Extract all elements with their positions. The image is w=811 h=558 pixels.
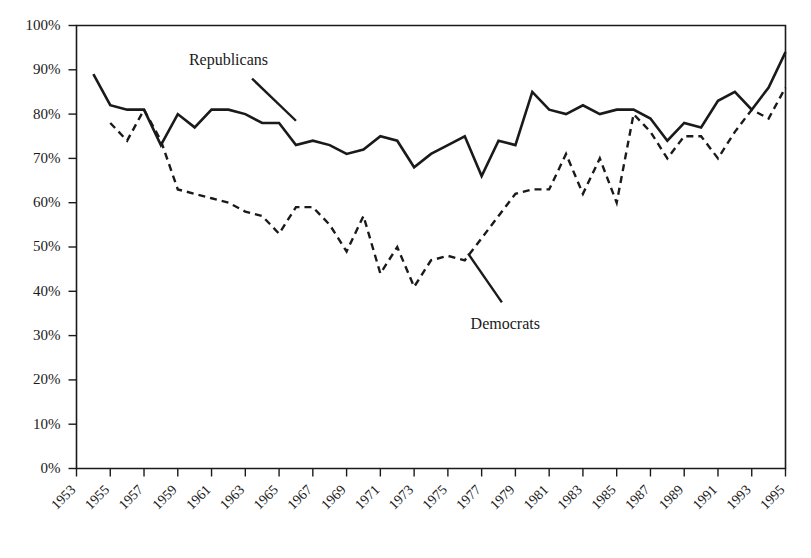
x-tick-label: 1991: [690, 482, 720, 512]
line-chart: 100%90%80%70%60%50%40%30%20%10%0% 195319…: [0, 0, 811, 558]
x-tick-label: 1973: [386, 482, 416, 512]
x-tick-label: 1965: [251, 482, 281, 512]
y-tick-label: 80%: [33, 106, 61, 122]
x-tick-label: 1987: [622, 482, 652, 512]
series-line-republicans: [93, 52, 785, 176]
series-line-democrats: [110, 88, 785, 287]
x-tick-label: 1983: [555, 482, 585, 512]
chart-container: 100%90%80%70%60%50%40%30%20%10%0% 195319…: [0, 0, 811, 558]
x-tick-label: 1989: [656, 482, 686, 512]
y-tick-label: 50%: [33, 238, 61, 254]
x-tick-label: 1971: [352, 482, 382, 512]
x-tick-label: 1957: [116, 482, 146, 512]
y-tick-label: 0%: [41, 460, 61, 476]
y-tick-label: 60%: [33, 194, 61, 210]
x-tick-label: 1953: [48, 482, 78, 512]
y-axis-tick-marks: [69, 26, 77, 469]
x-tick-label: 1981: [521, 482, 551, 512]
x-tick-label: 1963: [217, 482, 247, 512]
y-axis-tick-labels: 100%90%80%70%60%50%40%30%20%10%0%: [26, 17, 61, 476]
x-tick-label: 1955: [82, 482, 112, 512]
x-tick-label: 1985: [588, 482, 618, 512]
x-tick-label: 1993: [723, 482, 753, 512]
x-tick-label: 1967: [285, 482, 315, 512]
x-tick-label: 1969: [318, 482, 348, 512]
y-tick-label: 30%: [33, 327, 61, 343]
y-tick-label: 100%: [26, 17, 61, 33]
republicans-series-label: Republicans: [189, 51, 268, 69]
y-tick-label: 10%: [33, 416, 61, 432]
republicans-leader-line: [252, 79, 296, 121]
x-tick-label: 1995: [757, 482, 787, 512]
y-tick-label: 40%: [33, 283, 61, 299]
x-tick-label: 1961: [183, 482, 213, 512]
democrats-series-label: Democrats: [471, 315, 540, 332]
x-axis-tick-marks: [77, 469, 786, 477]
x-tick-label: 1975: [420, 482, 450, 512]
democrats-leader-line: [468, 254, 502, 303]
y-tick-label: 90%: [33, 61, 61, 77]
y-tick-label: 70%: [33, 150, 61, 166]
x-tick-label: 1979: [487, 482, 517, 512]
x-tick-label: 1959: [150, 482, 180, 512]
y-tick-label: 20%: [33, 371, 61, 387]
x-tick-label: 1977: [453, 482, 483, 512]
x-axis-tick-labels: 1953195519571959196119631965196719691971…: [48, 482, 787, 512]
axis-frame: [77, 26, 786, 469]
